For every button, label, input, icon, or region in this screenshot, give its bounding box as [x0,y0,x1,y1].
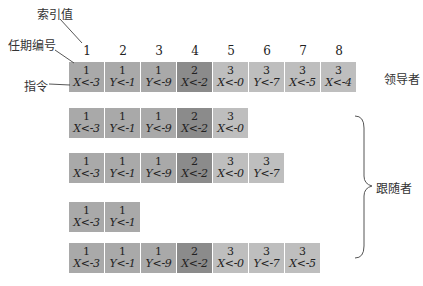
term-pointer-line [55,50,74,63]
followers-brace-icon [355,116,372,258]
annotation-lines [0,0,423,286]
index-pointer-line [60,19,82,43]
command-pointer-line [49,84,70,85]
